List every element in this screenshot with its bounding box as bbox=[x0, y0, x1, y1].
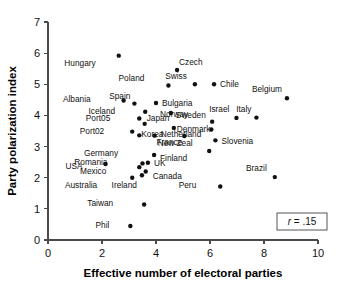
data-point bbox=[137, 165, 141, 169]
data-point-label: Spain bbox=[109, 91, 131, 101]
scatter-plot-figure: 012345670246810Effective number of elect… bbox=[0, 0, 343, 286]
data-point bbox=[207, 149, 211, 153]
data-point bbox=[152, 153, 156, 157]
y-axis-tick-label: 6 bbox=[34, 47, 40, 59]
data-point bbox=[144, 169, 148, 173]
data-point bbox=[212, 82, 216, 86]
data-point bbox=[117, 53, 121, 57]
x-axis-title: Effective number of electoral parties bbox=[84, 267, 283, 279]
y-axis-tick-label: 5 bbox=[34, 78, 40, 90]
x-axis-tick-label: 10 bbox=[312, 247, 324, 259]
data-point-label: Swiss bbox=[165, 71, 187, 81]
data-point bbox=[140, 173, 144, 177]
data-point-label: Chile bbox=[220, 79, 239, 89]
y-axis-tick-label: 1 bbox=[34, 203, 40, 215]
data-point-label: Czech bbox=[179, 57, 203, 67]
data-point-label: Peru bbox=[179, 180, 197, 190]
data-point-label: Italy bbox=[236, 104, 252, 114]
data-point-label: New Zeal bbox=[158, 138, 193, 148]
data-point-label: Port05 bbox=[86, 113, 111, 123]
x-axis-tick-label: 6 bbox=[207, 247, 213, 259]
x-axis-tick-label: 2 bbox=[99, 247, 105, 259]
data-point bbox=[140, 161, 144, 165]
y-axis-tick-label: 4 bbox=[34, 109, 40, 121]
data-point bbox=[130, 129, 134, 133]
data-point bbox=[128, 224, 132, 228]
data-point-label: Albania bbox=[63, 94, 91, 104]
data-point bbox=[213, 138, 217, 142]
data-point bbox=[132, 101, 136, 105]
data-point-label: Brazil bbox=[246, 163, 267, 173]
data-point bbox=[142, 202, 146, 206]
data-point bbox=[166, 83, 170, 87]
data-point-label: UK bbox=[154, 158, 166, 168]
y-axis-tick-label: 2 bbox=[34, 172, 40, 184]
data-point bbox=[234, 116, 238, 120]
y-axis-tick-label: 7 bbox=[34, 16, 40, 28]
x-axis-tick-label: 4 bbox=[153, 247, 159, 259]
data-point bbox=[254, 115, 258, 119]
y-axis-tick-label: 0 bbox=[34, 234, 40, 246]
data-point-label: Mexico bbox=[80, 166, 107, 176]
data-point bbox=[193, 82, 197, 86]
data-point bbox=[285, 96, 289, 100]
data-point-label: Phil bbox=[96, 220, 110, 230]
data-point-label: Japan bbox=[147, 113, 170, 123]
data-point-label: Belgium bbox=[252, 84, 282, 94]
y-axis-tick-label: 3 bbox=[34, 141, 40, 153]
data-point-label: Poland bbox=[119, 73, 145, 83]
data-point bbox=[146, 161, 150, 165]
data-point bbox=[210, 119, 214, 123]
data-point-label: Slovenia bbox=[221, 136, 253, 146]
y-axis-title: Party polarization index bbox=[6, 66, 18, 196]
x-axis-tick-label: 8 bbox=[261, 247, 267, 259]
data-point-label: Israel bbox=[209, 104, 229, 114]
data-point-label: Hungary bbox=[64, 58, 96, 68]
correlation-value: = .15 bbox=[291, 216, 317, 227]
data-point-label: Taiwan bbox=[87, 198, 113, 208]
data-point bbox=[218, 184, 222, 188]
data-point bbox=[209, 127, 213, 131]
plot-canvas: 012345670246810Effective number of elect… bbox=[0, 0, 343, 286]
data-point-label: Port02 bbox=[80, 126, 105, 136]
data-point-label: Ireland bbox=[112, 180, 138, 190]
correlation-text: r = .15 bbox=[288, 216, 317, 227]
x-axis-tick-label: 0 bbox=[45, 247, 51, 259]
data-point-label: Bulgaria bbox=[162, 98, 193, 108]
data-point bbox=[152, 133, 156, 137]
data-point-label: Australia bbox=[65, 180, 98, 190]
data-point bbox=[273, 175, 277, 179]
data-point bbox=[137, 116, 141, 120]
data-point bbox=[154, 101, 158, 105]
